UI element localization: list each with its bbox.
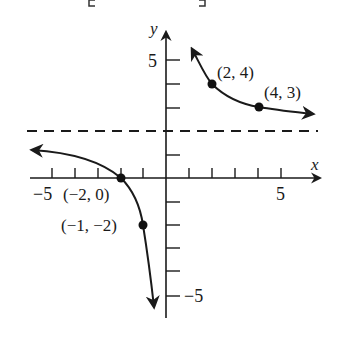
- point-label-2-4: (2, 4): [217, 63, 254, 82]
- y-tick-label-neg5: −5: [184, 286, 203, 306]
- cropped-bracket-marks: [89, 0, 205, 6]
- rational-function-graph: y x 5 −5 5 −5 (2, 4) (4, 3) (−2, 0) (−1,…: [0, 0, 337, 338]
- point-label-4-3: (4, 3): [264, 83, 301, 102]
- point-neg1-neg2: [139, 221, 148, 230]
- point-label-neg1-neg2: (−1, −2): [61, 216, 117, 235]
- x-axis-label: x: [310, 155, 319, 174]
- point-neg2-0: [117, 174, 126, 183]
- point-4-3: [255, 103, 264, 112]
- point-2-4: [208, 80, 217, 89]
- y-axis-label: y: [148, 19, 158, 38]
- y-tick-label-5: 5: [148, 51, 157, 71]
- x-tick-label-5: 5: [276, 184, 285, 204]
- point-label-neg2-0: (−2, 0): [63, 185, 109, 204]
- x-tick-label-neg5: −5: [33, 184, 52, 204]
